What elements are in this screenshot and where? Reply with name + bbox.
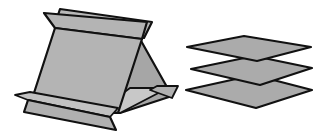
diagram-canvas: Folded tent-shaped surface beside a stac…: [0, 0, 321, 139]
